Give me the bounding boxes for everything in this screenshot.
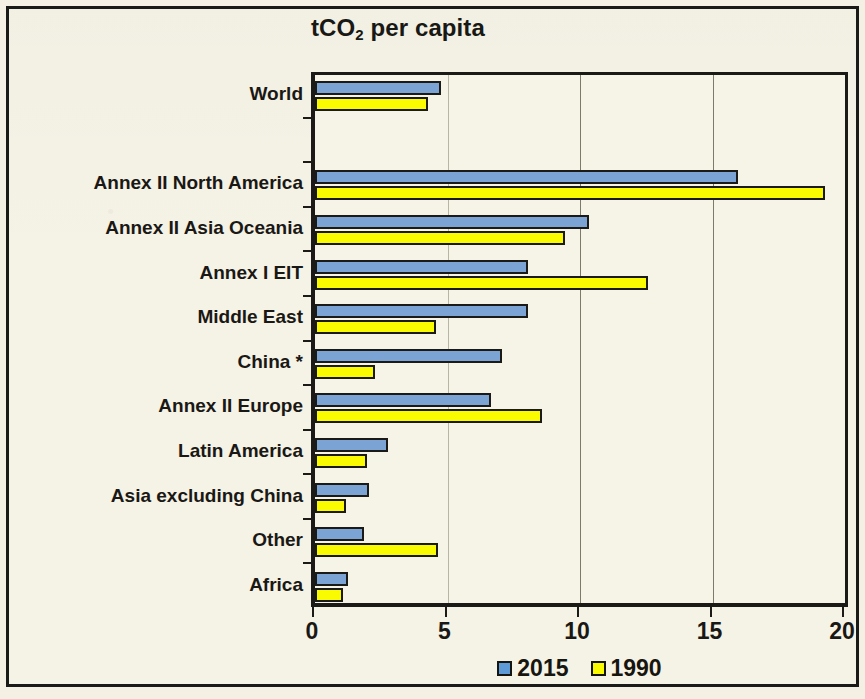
bar-group (315, 476, 845, 521)
category-label-2: Annex II Asia Oceania (3, 218, 303, 238)
category-label-6: Annex II Europe (3, 396, 303, 416)
bar-2015-9 (315, 527, 364, 541)
bar-1990-1 (315, 186, 825, 200)
category-label-8: Asia excluding China (3, 486, 303, 506)
bar-1990-3 (315, 276, 648, 290)
x-tick-label-15: 15 (680, 618, 740, 645)
bar-1990-8 (315, 499, 346, 513)
y-tick-6 (303, 340, 312, 342)
x-tick-5 (445, 607, 447, 617)
y-tick-9 (303, 473, 312, 475)
bar-1990-0 (315, 97, 428, 111)
category-label-0: World (3, 84, 303, 104)
x-tick-label-5: 5 (415, 618, 475, 645)
bar-2015-2 (315, 215, 589, 229)
bar-2015-1 (315, 170, 738, 184)
y-tick-3 (303, 206, 312, 208)
bar-1990-7 (315, 454, 367, 468)
bar-group (315, 521, 845, 566)
category-label-9: Other (3, 530, 303, 550)
legend-swatch-1990 (591, 661, 606, 676)
x-tick-15 (710, 607, 712, 617)
bar-1990-5 (315, 365, 375, 379)
bar-2015-0 (315, 81, 441, 95)
title-subscript: 2 (355, 26, 363, 43)
bar-2015-10 (315, 572, 348, 586)
category-label-1: Annex II North America (3, 173, 303, 193)
y-tick-1 (303, 117, 312, 119)
y-tick-8 (303, 429, 312, 431)
bar-group (315, 432, 845, 477)
bar-group (315, 164, 845, 209)
x-tick-label-20: 20 (812, 618, 865, 645)
y-tick-5 (303, 295, 312, 297)
bar-group (315, 209, 845, 254)
bar-2015-3 (315, 260, 528, 274)
bar-2015-7 (315, 438, 388, 452)
y-tick-2 (303, 161, 312, 163)
bar-group (315, 343, 845, 388)
bar-2015-6 (315, 393, 491, 407)
legend-label-2015: 2015 (517, 657, 568, 680)
x-tick-10 (577, 607, 579, 617)
bar-1990-2 (315, 231, 565, 245)
bar-1990-4 (315, 320, 436, 334)
bar-1990-9 (315, 543, 438, 557)
legend-label-1990: 1990 (611, 657, 662, 680)
category-label-4: Middle East (3, 307, 303, 327)
bar-group (315, 253, 845, 298)
legend-item-1990: 1990 (591, 657, 662, 680)
bar-1990-10 (315, 588, 343, 602)
bar-group (315, 387, 845, 432)
y-tick-10 (303, 518, 312, 520)
category-label-10: Africa (3, 575, 303, 595)
category-axis-labels: WorldAnnex II North AmericaAnnex II Asia… (0, 72, 303, 607)
y-tick-11 (303, 562, 312, 564)
bar-group (315, 298, 845, 343)
chart-legend: 20151990 (311, 657, 848, 680)
legend-swatch-2015 (497, 661, 512, 676)
bar-2015-8 (315, 483, 369, 497)
x-tick-label-10: 10 (547, 618, 607, 645)
chart-title: tCO2 per capita (311, 14, 611, 42)
x-tick-20 (842, 607, 844, 617)
bar-1990-6 (315, 409, 542, 423)
bar-2015-4 (315, 304, 528, 318)
category-label-3: Annex I EIT (3, 263, 303, 283)
bar-group (315, 565, 845, 610)
bar-2015-5 (315, 349, 502, 363)
x-tick-0 (312, 607, 314, 617)
bar-group (315, 75, 845, 120)
category-label-7: Latin America (3, 441, 303, 461)
plot-area (311, 72, 848, 607)
x-tick-label-0: 0 (282, 618, 342, 645)
y-tick-4 (303, 250, 312, 252)
y-tick-7 (303, 384, 312, 386)
category-label-5: China * (3, 352, 303, 372)
legend-item-2015: 2015 (497, 657, 568, 680)
